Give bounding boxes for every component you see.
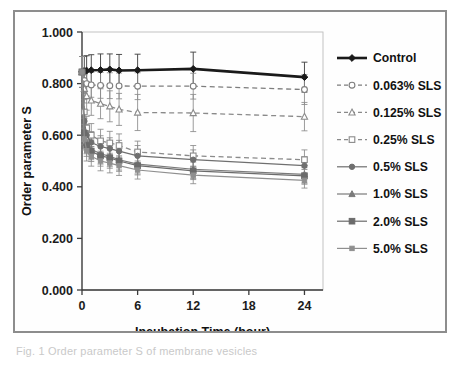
- data-point-marker: [349, 218, 355, 224]
- caption-text: Fig. 1 Order parameter S of membrane ves…: [16, 345, 446, 357]
- y-tick-label: 0.600: [42, 129, 73, 143]
- data-point-marker: [135, 168, 139, 172]
- y-axis-title: Order parameter S: [20, 106, 34, 216]
- line-chart: 0.0000.2000.4000.6000.8001.00006121824In…: [15, 12, 445, 331]
- legend-label-0-5-sls: 0.5% SLS: [373, 160, 428, 174]
- x-tick-label: 0: [79, 299, 86, 313]
- data-point-marker: [349, 137, 355, 143]
- data-point-marker: [117, 163, 121, 167]
- x-tick-label: 18: [242, 299, 256, 313]
- x-tick-label: 12: [186, 299, 200, 313]
- data-point-marker: [349, 164, 354, 169]
- figure-frame: 0.0000.2000.4000.6000.8001.00006121824In…: [13, 10, 447, 333]
- data-point-marker: [98, 83, 104, 89]
- data-point-marker: [135, 109, 141, 115]
- data-point-marker: [350, 246, 354, 250]
- legend-label-5-0-sls: 5.0% SLS: [373, 242, 428, 256]
- data-point-marker: [97, 100, 103, 106]
- data-point-marker: [190, 110, 196, 116]
- chart-canvas: 0.0000.2000.4000.6000.8001.00006121824In…: [15, 12, 445, 331]
- data-point-marker: [82, 137, 86, 141]
- x-tick-label: 6: [134, 299, 141, 313]
- data-point-marker: [302, 157, 308, 163]
- x-axis-title: Incubation Time (hour): [135, 325, 270, 331]
- data-point-marker: [349, 55, 356, 62]
- y-tick-label: 0.200: [42, 232, 73, 246]
- data-point-marker: [116, 106, 122, 112]
- legend-item-control[interactable]: Control: [337, 51, 416, 65]
- data-point-marker: [98, 153, 104, 159]
- y-tick-label: 1.000: [42, 26, 73, 40]
- data-point-marker: [107, 103, 113, 109]
- data-point-marker: [80, 70, 84, 74]
- data-point-marker: [302, 178, 306, 182]
- legend-item-0-125-sls[interactable]: 0.125% SLS: [337, 106, 441, 120]
- x-tick-label: 24: [298, 299, 312, 313]
- data-point-marker: [301, 113, 307, 119]
- y-tick-label: 0.000: [42, 284, 73, 298]
- legend-item-0-5-sls[interactable]: 0.5% SLS: [337, 160, 428, 174]
- data-point-marker: [84, 148, 88, 152]
- legend-item-5-0-sls[interactable]: 5.0% SLS: [337, 242, 428, 256]
- data-point-marker: [106, 66, 113, 73]
- data-point-marker: [349, 109, 355, 115]
- data-point-marker: [107, 155, 113, 161]
- legend: Control0.063% SLS0.125% SLS0.25% SLS0.5%…: [337, 51, 441, 255]
- legend-item-0-25-sls[interactable]: 0.25% SLS: [337, 133, 435, 147]
- legend-label-1-0-sls: 1.0% SLS: [373, 187, 428, 201]
- data-point-marker: [107, 146, 112, 151]
- data-point-marker: [98, 159, 102, 163]
- legend-label-0-125-sls: 0.125% SLS: [373, 106, 441, 120]
- data-point-marker: [107, 140, 113, 146]
- legend-item-2-0-sls[interactable]: 2.0% SLS: [337, 215, 428, 229]
- data-point-marker: [108, 161, 112, 165]
- data-point-marker: [190, 83, 196, 89]
- data-point-marker: [107, 83, 113, 89]
- data-point-marker: [302, 163, 307, 168]
- data-point-marker: [191, 157, 196, 162]
- legend-item-1-0-sls[interactable]: 1.0% SLS: [337, 187, 428, 201]
- data-point-marker: [98, 144, 103, 149]
- legend-label-control: Control: [373, 51, 416, 65]
- y-tick-label: 0.400: [42, 180, 73, 194]
- data-point-marker: [116, 83, 122, 89]
- data-point-marker: [116, 143, 122, 149]
- data-point-marker: [135, 83, 141, 89]
- legend-item-0-063-sls[interactable]: 0.063% SLS: [337, 79, 441, 93]
- legend-label-0-25-sls: 0.25% SLS: [373, 133, 435, 147]
- data-point-marker: [349, 82, 355, 88]
- data-point-marker: [190, 65, 197, 72]
- data-point-marker: [191, 173, 195, 177]
- y-tick-label: 0.800: [42, 77, 73, 91]
- data-point-marker: [135, 153, 140, 158]
- data-point-marker: [98, 138, 104, 144]
- data-point-marker: [116, 148, 121, 153]
- data-point-marker: [89, 154, 93, 158]
- data-point-marker: [88, 82, 94, 88]
- figure-caption: Fig. 1 Order parameter S of membrane ves…: [16, 345, 446, 365]
- legend-label-2-0-sls: 2.0% SLS: [373, 215, 428, 229]
- legend-label-0-063-sls: 0.063% SLS: [373, 79, 441, 93]
- data-point-marker: [302, 87, 308, 93]
